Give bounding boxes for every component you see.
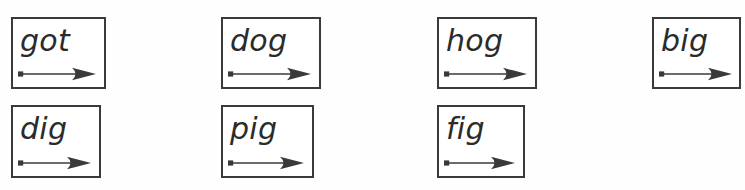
word-card[interactable]: pig [221,105,314,178]
blend-arrow-icon [659,66,732,82]
word-label: fig [439,108,523,150]
blend-arrow-icon [444,66,527,82]
word-card-worksheet: gotdoghogbigdigpigfig [0,0,745,190]
blend-arrow-icon [444,155,515,171]
word-card[interactable]: big [652,17,741,89]
word-card[interactable]: got [11,17,106,89]
word-label: pig [223,108,312,150]
word-card[interactable]: hog [437,17,537,89]
blend-arrow-icon [228,66,311,82]
word-label: big [654,20,739,62]
word-label: dog [223,20,319,62]
blend-arrow-icon [228,155,304,171]
word-label: hog [439,20,535,62]
word-label: got [13,20,104,62]
word-card[interactable]: fig [437,105,525,178]
word-label: dig [13,108,99,150]
blend-arrow-icon [18,66,96,82]
word-card[interactable]: dog [221,17,321,89]
blend-arrow-icon [18,155,91,171]
word-card[interactable]: dig [11,105,101,178]
